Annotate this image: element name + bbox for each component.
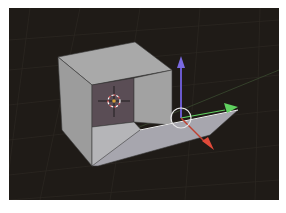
cube-right-inner-face: [134, 70, 172, 125]
viewport-scene: [9, 8, 279, 200]
3d-viewport[interactable]: [9, 8, 279, 200]
z-axis-arrow-icon[interactable]: [177, 56, 185, 68]
cube-back-inner-face: [92, 78, 134, 127]
x-axis-arrow-icon[interactable]: [202, 137, 214, 150]
